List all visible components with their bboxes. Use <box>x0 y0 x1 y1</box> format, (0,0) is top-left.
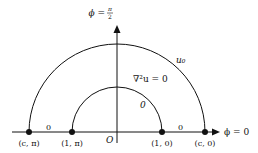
laplace-equation-label: ∇²u = 0 <box>133 74 168 84</box>
vertical-axis-arrow-icon <box>114 25 121 33</box>
vertical-axis-label-denominator: 2 <box>108 13 112 20</box>
origin-label: O <box>106 135 114 145</box>
point-1-0 <box>159 129 165 135</box>
point-label-c-pi: (c, π) <box>18 139 39 148</box>
horizontal-axis-arrow-icon <box>212 129 220 136</box>
point-1-pi <box>69 129 75 135</box>
point-c-0 <box>202 129 208 135</box>
point-c-pi <box>26 129 32 135</box>
vertical-axis-label-lhs: ϕ = <box>88 8 105 18</box>
vertical-axis-label-numerator: π <box>107 5 113 12</box>
point-label-c-0: (c, 0) <box>195 139 216 148</box>
left-segment-label: 0 <box>46 123 51 132</box>
point-label-1-pi: (1, π) <box>61 139 83 148</box>
point-label-1-0: (1, 0) <box>151 139 173 148</box>
inner-arc-label: 0 <box>140 100 146 110</box>
polar-semicircle-diagram: ϕ = π 2 ϕ = 0 O u₀ 0 ∇²u = 0 0 0 (c, π) … <box>0 0 258 153</box>
right-segment-label: 0 <box>178 123 183 132</box>
horizontal-axis-label: ϕ = 0 <box>224 127 249 137</box>
outer-arc-label: u₀ <box>176 55 186 65</box>
